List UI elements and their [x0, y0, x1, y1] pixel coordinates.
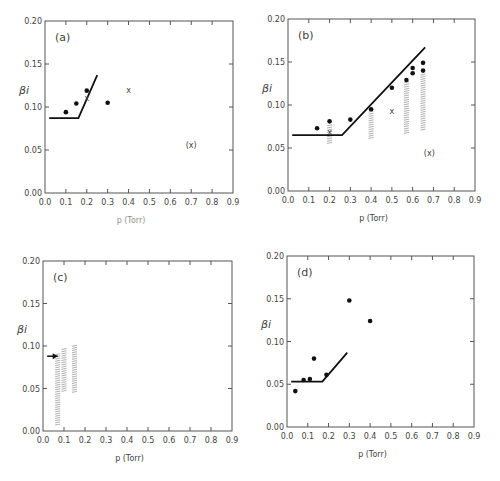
hatched-range — [404, 91, 409, 92]
hatched-range — [369, 131, 374, 132]
hatched-range — [404, 108, 409, 109]
hatched-range — [421, 81, 426, 82]
hatched-range — [404, 97, 409, 98]
hatched-range — [55, 398, 60, 399]
x-tick-label: 0.8 — [448, 196, 461, 205]
hatched-range — [369, 129, 374, 130]
hatched-range — [62, 349, 67, 350]
hatched-range — [72, 352, 77, 353]
y-tick-label: 0.00 — [22, 427, 40, 436]
x-tick-label: 0.2 — [80, 198, 93, 207]
hatched-range — [55, 393, 60, 394]
data-point — [421, 61, 426, 66]
hatched-range — [55, 373, 60, 374]
y-tick-label: 0.15 — [24, 60, 42, 69]
hatched-range — [421, 109, 426, 110]
hatched-range — [404, 102, 409, 103]
hatched-range — [404, 117, 409, 118]
hatched-range — [72, 356, 77, 357]
hatched-range — [421, 92, 426, 93]
plot-frame — [45, 21, 233, 193]
hatched-range — [404, 86, 409, 87]
hatched-range — [55, 360, 60, 361]
x-tick-label: 0.0 — [282, 196, 295, 205]
y-tick-label: 0.20 — [24, 17, 42, 26]
hatched-range — [421, 122, 426, 123]
y-axis-title: βi — [261, 82, 272, 95]
hatched-range — [404, 121, 409, 122]
hatched-range — [72, 365, 77, 366]
data-point — [368, 319, 373, 324]
y-tick-label: 0.00 — [24, 189, 42, 198]
x-tick-label: 0.0 — [281, 432, 294, 441]
data-point — [369, 107, 374, 112]
hatched-range — [72, 367, 77, 368]
hatched-range — [421, 85, 426, 86]
hatched-range — [421, 89, 426, 90]
hatched-range — [72, 347, 77, 348]
hatched-range — [72, 345, 77, 346]
x-tick-label: 0.2 — [323, 196, 336, 205]
hatched-range — [62, 357, 67, 358]
y-axis-title: βi — [16, 323, 27, 336]
hatched-range — [369, 113, 374, 114]
hatched-range — [55, 389, 60, 390]
data-point — [293, 389, 298, 394]
hatched-range — [404, 84, 409, 85]
panel-c: 0.00.10.20.30.40.50.60.70.80.90.000.050.… — [16, 257, 238, 463]
hatched-range — [55, 369, 60, 370]
x-tick-label: 0.6 — [164, 198, 177, 207]
panel-b: 0.00.10.20.30.40.50.60.70.80.90.000.050.… — [261, 15, 481, 223]
data-point — [84, 88, 89, 93]
y-tick-label: 0.20 — [22, 257, 40, 266]
x-tick-label: 0.7 — [426, 432, 439, 441]
hatched-range — [72, 389, 77, 390]
hatched-range — [72, 378, 77, 379]
hatched-range — [62, 371, 67, 372]
hatched-range — [327, 125, 332, 126]
hatched-range — [55, 413, 60, 414]
hatched-range — [55, 395, 60, 396]
figure-canvas: 0.00.10.20.30.40.50.60.70.80.90.000.050.… — [0, 0, 500, 481]
x-tick-label: 0.3 — [101, 198, 114, 207]
hatched-range — [62, 379, 67, 380]
y-tick-label: 0.05 — [266, 380, 284, 389]
hatched-range — [404, 119, 409, 120]
hatched-range — [421, 94, 426, 95]
hatched-range — [55, 424, 60, 425]
hatched-range — [404, 124, 409, 125]
hatched-range — [72, 385, 77, 386]
hatched-range — [404, 132, 409, 133]
hatched-range — [72, 350, 77, 351]
x-tick-label: 0.8 — [205, 436, 218, 445]
data-point — [347, 298, 352, 303]
y-tick-label: 0.00 — [266, 423, 284, 432]
panel-label: (d) — [297, 266, 313, 279]
y-tick-label: 0.05 — [24, 146, 42, 155]
hatched-range — [404, 128, 409, 129]
hatched-range — [404, 88, 409, 89]
data-point — [301, 378, 306, 383]
x-tick-label: 0.9 — [227, 198, 240, 207]
hatched-range — [327, 140, 332, 141]
x-axis-title: p (Torr) — [117, 216, 146, 225]
hatched-range — [421, 83, 426, 84]
hatched-range — [72, 383, 77, 384]
plot-frame — [288, 19, 475, 191]
x-tick-label: 0.6 — [406, 196, 419, 205]
data-point — [327, 119, 332, 124]
hatched-range — [421, 74, 426, 75]
x-tick-label: 0.5 — [142, 436, 155, 445]
x-tick-label: 0.4 — [365, 196, 378, 205]
data-point — [404, 78, 409, 83]
x-tick-label: 0.2 — [79, 436, 92, 445]
y-tick-label: 0.20 — [267, 15, 285, 24]
hatched-range — [55, 387, 60, 388]
x-tick-label: 0.8 — [447, 432, 460, 441]
hatched-range — [421, 116, 426, 117]
x-tick-label: 0.4 — [121, 436, 134, 445]
data-point — [421, 68, 426, 73]
x-tick-label: 0.0 — [39, 198, 52, 207]
hatched-range — [55, 378, 60, 379]
hatched-range — [55, 422, 60, 423]
